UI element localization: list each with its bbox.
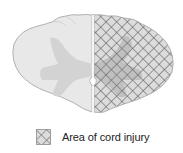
legend: Area of cord injury <box>36 128 149 145</box>
central-canal <box>90 78 95 83</box>
right-hemicord-injured <box>92 15 173 113</box>
crosshatch-swatch-icon <box>36 129 51 145</box>
legend-label: Area of cord injury <box>62 131 149 143</box>
